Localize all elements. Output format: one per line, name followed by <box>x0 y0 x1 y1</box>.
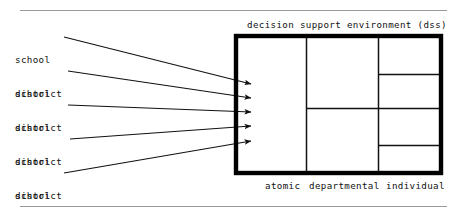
dss-row-dividers <box>307 75 439 146</box>
connector-arrow-4 <box>64 141 251 173</box>
connector-arrow-3 <box>70 126 251 139</box>
dss-outer-box <box>236 36 441 173</box>
connector-arrows <box>64 37 251 173</box>
dss-column-dividers <box>307 38 379 171</box>
figure-canvas: school district school district school d… <box>0 0 467 218</box>
connector-arrow-0 <box>64 37 251 84</box>
connector-arrow-1 <box>68 71 251 98</box>
diagram-vector-layer <box>0 0 467 218</box>
connector-arrow-2 <box>68 105 251 112</box>
